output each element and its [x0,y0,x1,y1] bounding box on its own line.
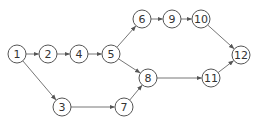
edge-10-to-12 [208,25,234,49]
node-4: 4 [70,45,88,63]
node-label: 3 [59,101,66,114]
node-2: 2 [39,45,57,63]
node-9: 9 [163,10,181,28]
node-label: 1 [14,48,21,61]
node-label: 6 [139,13,146,26]
node-10: 10 [192,10,210,28]
node-label: 9 [169,13,176,26]
node-label: 12 [234,49,248,62]
node-label: 10 [194,13,208,26]
node-6: 6 [133,10,151,28]
node-8: 8 [139,69,157,87]
node-12: 12 [232,46,250,64]
node-label: 11 [204,72,218,85]
edge-11-to-12 [218,61,233,73]
node-label: 2 [45,48,52,61]
node-label: 7 [121,101,128,114]
edge-7-to-8 [130,85,142,100]
edge-5-to-8 [119,59,140,73]
node-label: 8 [145,72,152,85]
network-diagram: 123456789101112 [0,0,259,121]
node-label: 5 [108,48,115,61]
edge-1-to-3 [23,61,56,100]
edge-5-to-6 [117,26,136,47]
node-label: 4 [76,48,83,61]
node-5: 5 [102,45,120,63]
node-1: 1 [8,45,26,63]
node-7: 7 [115,98,133,116]
node-3: 3 [53,98,71,116]
node-11: 11 [202,69,220,87]
